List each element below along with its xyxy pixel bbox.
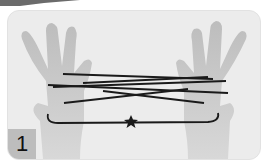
hands-with-string-photo	[8, 11, 260, 159]
decorative-swoosh	[0, 0, 80, 6]
illustration-panel: 1	[7, 10, 261, 160]
star-icon	[124, 115, 138, 128]
step-number-badge: 1	[8, 129, 36, 159]
